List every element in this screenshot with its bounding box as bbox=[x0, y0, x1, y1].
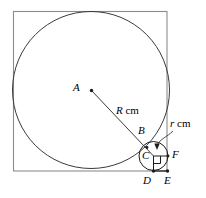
point-dot-F bbox=[167, 155, 170, 158]
leader-arrowhead-icon bbox=[154, 144, 159, 151]
label-point-c: C bbox=[142, 150, 149, 161]
point-dot-E bbox=[166, 169, 169, 172]
label-point-a: A bbox=[73, 82, 80, 93]
point-dot-D bbox=[152, 169, 155, 172]
label-large-radius-symbol: R bbox=[116, 104, 123, 116]
figure-canvas bbox=[0, 0, 206, 198]
center-dot-A bbox=[90, 89, 93, 92]
geometry-figure: A B C D E F R cm r cm bbox=[0, 0, 206, 198]
label-large-radius: R cm bbox=[116, 105, 139, 116]
label-point-e: E bbox=[164, 175, 171, 186]
label-point-d: D bbox=[143, 175, 151, 186]
right-angle-marker bbox=[154, 156, 161, 164]
label-small-radius: r cm bbox=[170, 118, 190, 129]
label-small-radius-unit: cm bbox=[174, 117, 190, 129]
label-large-radius-unit: cm bbox=[123, 104, 139, 116]
label-point-f: F bbox=[172, 149, 179, 160]
label-point-b: B bbox=[138, 125, 145, 136]
